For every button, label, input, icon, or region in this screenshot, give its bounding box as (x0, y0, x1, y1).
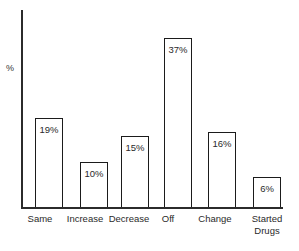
bar-group-change: 16% (208, 132, 236, 207)
bar-started-drugs[interactable]: 6% (253, 177, 281, 207)
bar-value-decrease: 15% (122, 142, 148, 153)
x-label-started-drugs: Started Drugs (241, 213, 293, 236)
x-axis-line (21, 207, 283, 209)
bar-same[interactable]: 19% (35, 118, 63, 207)
bar-value-increase: 10% (81, 168, 107, 179)
bar-increase[interactable]: 10% (80, 162, 108, 207)
bar-group-decrease: 15% (121, 136, 149, 207)
bar-change[interactable]: 16% (208, 132, 236, 207)
y-axis-label: % (6, 63, 14, 73)
plot-area: 19% 10% 15% 37% 16% 6% (23, 10, 283, 207)
bar-value-off: 37% (165, 44, 191, 55)
bar-group-off: 37% (164, 38, 192, 207)
bar-value-started-drugs: 6% (254, 183, 280, 194)
bar-value-same: 19% (36, 124, 62, 135)
bar-group-started-drugs: 6% (253, 177, 281, 207)
bar-group-increase: 10% (80, 162, 108, 207)
x-label-change: Change (188, 213, 242, 225)
bar-value-change: 16% (209, 138, 235, 149)
bar-off[interactable]: 37% (164, 38, 192, 207)
bar-chart: % 19% 10% 15% 37% 16% (0, 0, 299, 251)
x-label-off: Off (147, 213, 189, 225)
bar-decrease[interactable]: 15% (121, 136, 149, 207)
bar-group-same: 19% (35, 118, 63, 207)
